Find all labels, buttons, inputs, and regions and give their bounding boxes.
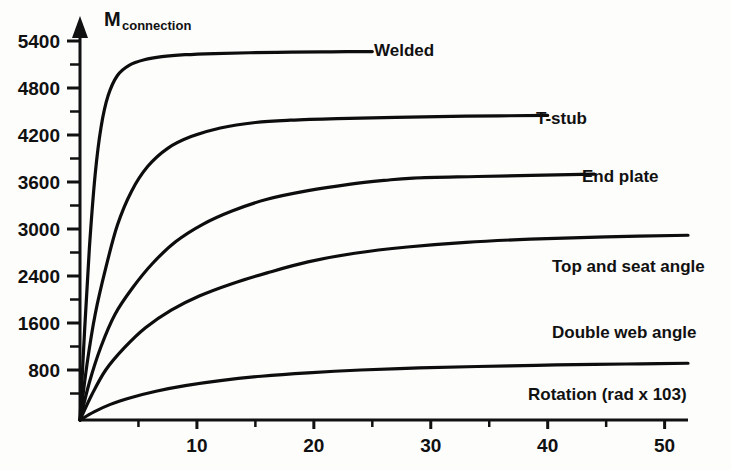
axes	[72, 16, 688, 420]
x-axis-tick-labels: 1020304050	[186, 435, 675, 456]
x-tick-label: 40	[537, 435, 558, 456]
curve-welded	[80, 52, 372, 420]
data-curves	[80, 52, 688, 420]
y-tick-label: 4800	[18, 78, 60, 99]
curve-end-plate	[80, 174, 594, 420]
series-labels: WeldedT-stubEnd plateTop and seat angleD…	[374, 41, 705, 342]
y-axis-subscript: connection	[122, 18, 191, 33]
series-label-end-plate: End plate	[582, 167, 659, 186]
moment-rotation-chart: 8001600240030003600420048005400 10203040…	[0, 0, 731, 470]
y-tick-label: 3000	[18, 219, 60, 240]
series-label-top-and-seat-angle: Top and seat angle	[552, 257, 705, 276]
y-tick-label: 3600	[18, 172, 60, 193]
x-tick-label: 10	[186, 435, 207, 456]
y-tick-label: 5400	[18, 31, 60, 52]
y-tick-label: 2400	[18, 266, 60, 287]
chart-page: 8001600240030003600420048005400 10203040…	[0, 0, 731, 470]
x-tick-label: 50	[654, 435, 675, 456]
y-axis-arrow-icon	[72, 16, 88, 38]
series-label-welded: Welded	[374, 41, 434, 60]
y-tick-label: 4200	[18, 125, 60, 146]
x-tick-label: 20	[303, 435, 324, 456]
y-axis-tick-labels: 8001600240030003600420048005400	[18, 31, 60, 381]
series-label-t-stub: T-stub	[536, 109, 587, 128]
y-tick-label: 1600	[18, 313, 60, 334]
y-tick-label: 800	[28, 360, 60, 381]
x-tick-label: 30	[420, 435, 441, 456]
x-axis-title: Rotation (rad x 103)	[528, 385, 687, 404]
series-label-double-web-angle: Double web angle	[552, 323, 697, 342]
y-axis-title: M	[104, 8, 121, 30]
